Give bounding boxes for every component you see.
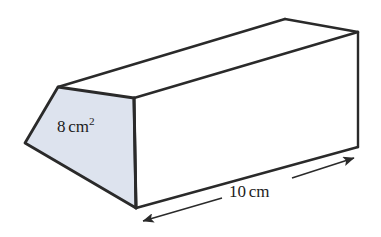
area-unit: cm bbox=[68, 117, 89, 136]
edge-front-vertical bbox=[134, 98, 136, 208]
length-dimension-label: 10cm bbox=[229, 183, 270, 200]
area-unit-exponent: 2 bbox=[89, 115, 95, 127]
length-unit: cm bbox=[249, 182, 270, 201]
length-value: 10 bbox=[229, 182, 246, 201]
prism-figure: 8cm2 10cm bbox=[0, 0, 381, 237]
cross-section-area-label: 8cm2 bbox=[57, 118, 95, 135]
area-value: 8 bbox=[57, 117, 66, 136]
